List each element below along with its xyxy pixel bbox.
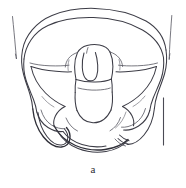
left-ilium-inferior-border: [31, 67, 65, 107]
right-inner-curve-hairline: [116, 112, 127, 128]
right-acetabulum-region: [122, 107, 155, 145]
sacrum-right-margin: [110, 52, 113, 79]
right-arcuate-line: [116, 67, 157, 72]
left-ilium: [22, 50, 72, 112]
sacrum: [65, 45, 122, 123]
left-guide-line: [13, 17, 17, 59]
sacrum-left-margin: [75, 53, 78, 80]
right-iliac-fossa-line: [119, 63, 158, 66]
left-ilium-lateral-margin: [24, 59, 37, 112]
sacrum-ala-hairline-right: [119, 60, 120, 71]
iliac-crest-outer-arc: [23, 8, 167, 50]
sacral-median-crest: [87, 48, 88, 54]
coccyx-tip: [77, 110, 111, 123]
sacral-segment-line-lower: [78, 88, 110, 90]
pubic-symphysis-right: [120, 135, 130, 141]
coccyx-right-margin: [111, 92, 113, 110]
figure-container: a: [0, 0, 186, 188]
right-ilium: [116, 50, 167, 111]
left-ischial-spine: [54, 107, 65, 126]
left-ilium-outline: [22, 50, 33, 109]
right-ilium-inferior-border: [123, 67, 157, 107]
right-guide-line: [169, 16, 172, 60]
iliac-crest: [23, 8, 167, 59]
figure-caption: a: [0, 163, 186, 176]
obturator-foramen-right-arc: [110, 118, 121, 131]
iliac-crest-inner-arc: [24, 18, 164, 59]
left-iliac-fossa-line: [30, 63, 69, 66]
sacrum-lower-body-right: [111, 79, 112, 92]
sacrum-lower-body-left: [75, 80, 76, 93]
contour-hairlines: [42, 60, 145, 129]
left-ilium-hairline: [42, 97, 54, 108]
right-ilium-hairline: [133, 96, 145, 107]
sacral-canal-outline: [82, 53, 98, 81]
sacral-promontory: [78, 45, 111, 53]
left-acetabulum-inner-rim: [41, 110, 65, 129]
left-acetabulum-region: [33, 107, 70, 148]
coccyx-left-margin: [75, 93, 77, 111]
pelvis-illustration: [0, 0, 186, 188]
